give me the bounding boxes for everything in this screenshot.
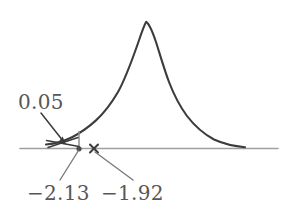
critical-value-leader-line	[60, 151, 79, 181]
tail-probability-label: 0.05	[18, 92, 64, 112]
test-statistic-leader-line	[95, 152, 133, 180]
test-statistic-label: −1.92	[101, 183, 164, 203]
alpha-arrow	[41, 113, 79, 148]
figure-container: 0.05 −2.13 −1.92	[0, 0, 289, 218]
density-curve	[46, 22, 245, 147]
critical-value-label: −2.13	[27, 183, 90, 203]
